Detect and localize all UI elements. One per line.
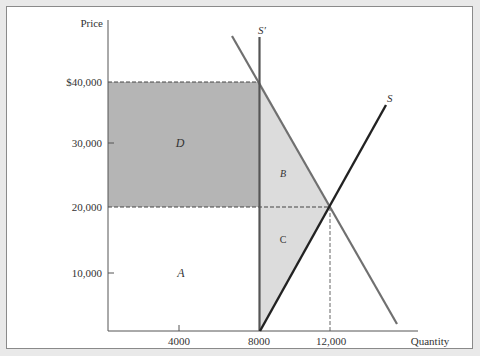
region-d-label: D xyxy=(175,136,185,150)
y-tick-label-30000: 30,000 xyxy=(72,137,103,149)
y-axis-label: Price xyxy=(80,17,103,29)
y-tick-label-10000: 10,000 xyxy=(72,267,103,279)
region-c-label: C xyxy=(280,234,287,245)
x-tick-label-12000: 12,000 xyxy=(316,335,347,347)
region-a-label: A xyxy=(176,266,185,280)
x-axis-label: Quantity xyxy=(411,335,450,347)
region-b-label: B xyxy=(280,168,286,179)
y-tick-label-40000: $40,000 xyxy=(66,76,102,88)
x-tick-label-8000: 8000 xyxy=(248,335,271,347)
supply-demand-chart: Price Quantity $40,000 30,000 20,000 10,… xyxy=(0,0,480,356)
s-prime-label: S′ xyxy=(258,24,267,36)
x-tick-label-4000: 4000 xyxy=(168,335,191,347)
y-tick-label-20000: 20,000 xyxy=(72,201,103,213)
s-label: S xyxy=(387,92,393,104)
